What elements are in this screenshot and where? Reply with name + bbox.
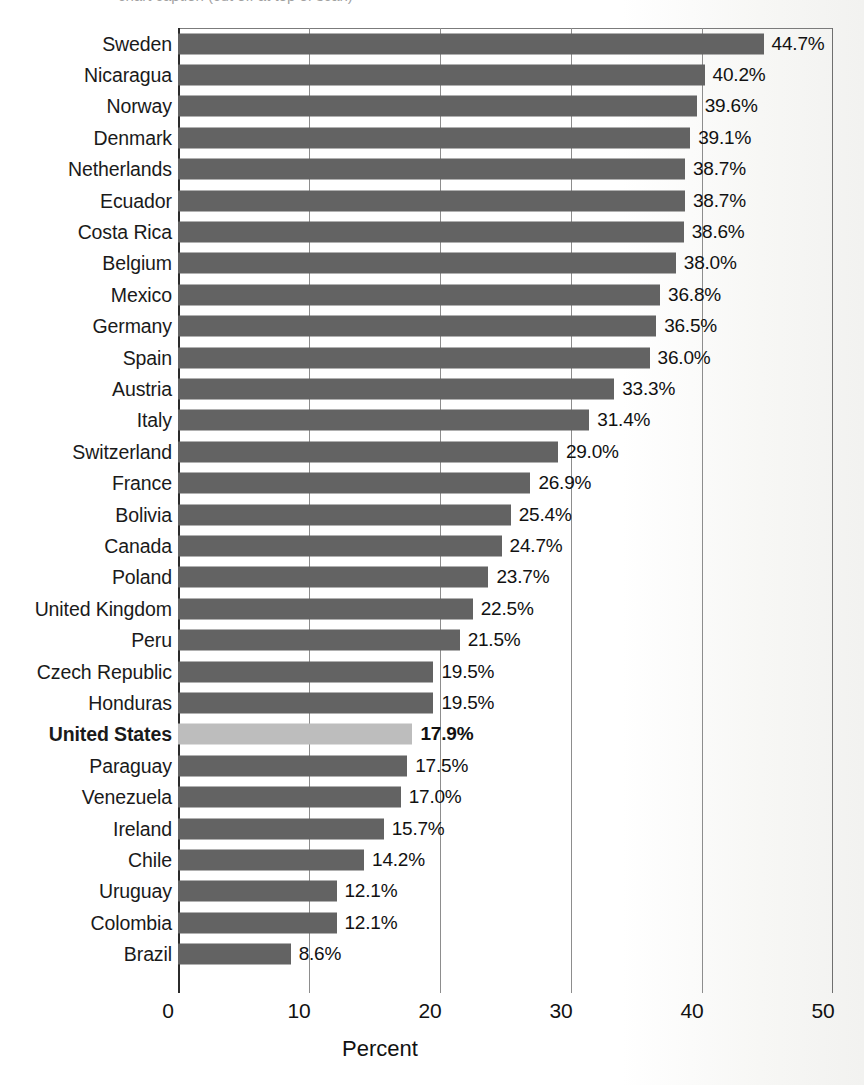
bar-row[interactable]: Canada24.7% — [0, 530, 864, 561]
bar-row[interactable]: Venezuela17.0% — [0, 782, 864, 813]
bar-row-label: Colombia — [90, 911, 172, 934]
bar-row[interactable]: Austria33.3% — [0, 373, 864, 404]
bar[interactable] — [178, 284, 660, 305]
bar[interactable] — [178, 912, 337, 933]
x-axis-title-text: Percent — [342, 1036, 418, 1061]
bar-value-label: 29.0% — [566, 441, 619, 463]
bar-value-label: 36.5% — [664, 315, 717, 337]
bar-row-label: Bolivia — [115, 503, 172, 526]
bar-value-label: 17.9% — [420, 723, 473, 745]
bar-value-label: 8.6% — [299, 943, 342, 965]
bar-row-label: France — [112, 472, 172, 495]
bar-row[interactable]: Costa Rica38.6% — [0, 216, 864, 247]
bar-row-label: Ecuador — [100, 189, 172, 212]
bar[interactable] — [178, 190, 685, 211]
bar-row[interactable]: Paraguay17.5% — [0, 750, 864, 781]
bar-row[interactable]: Bolivia25.4% — [0, 499, 864, 530]
bar-row[interactable]: Netherlands38.7% — [0, 154, 864, 185]
bar[interactable] — [178, 661, 433, 682]
bar-value-label: 44.7% — [772, 33, 825, 55]
bar[interactable] — [178, 159, 685, 180]
bar-value-label: 24.7% — [510, 535, 563, 557]
bar-row-label: Czech Republic — [37, 660, 172, 683]
bar-value-label: 25.4% — [519, 504, 572, 526]
bar-row[interactable]: Uruguay12.1% — [0, 876, 864, 907]
bar-row-label: Ireland — [113, 817, 172, 840]
bar-row[interactable]: Germany36.5% — [0, 311, 864, 342]
bar[interactable] — [178, 850, 364, 871]
bar-value-label: 14.2% — [372, 849, 425, 871]
bar-value-label: 39.1% — [698, 127, 751, 149]
bar-row-label: Poland — [112, 566, 172, 589]
bar[interactable] — [178, 881, 337, 902]
bar[interactable] — [178, 222, 684, 243]
bar-row[interactable]: Belgium38.0% — [0, 248, 864, 279]
bar[interactable] — [178, 441, 558, 462]
bar-row-label: Honduras — [88, 692, 172, 715]
bar[interactable] — [178, 379, 614, 400]
bar-row-label: Switzerland — [72, 440, 172, 463]
bar[interactable] — [178, 347, 650, 368]
bar[interactable] — [178, 598, 473, 619]
bar-row[interactable]: Ireland15.7% — [0, 813, 864, 844]
bar[interactable] — [178, 410, 589, 431]
bar-row[interactable]: Sweden44.7% — [0, 28, 864, 59]
bar[interactable] — [178, 944, 291, 965]
bar[interactable] — [178, 536, 502, 557]
bar[interactable] — [178, 787, 401, 808]
bar-value-label: 17.0% — [409, 786, 462, 808]
bar[interactable] — [178, 473, 530, 494]
bar-value-label: 21.5% — [468, 629, 521, 651]
x-tick-40: 40 — [681, 999, 704, 1023]
bar-value-label: 38.7% — [693, 158, 746, 180]
bar[interactable] — [178, 316, 656, 337]
x-tick-30: 30 — [550, 999, 573, 1023]
bar-row[interactable]: Norway39.6% — [0, 91, 864, 122]
bar[interactable] — [178, 567, 488, 588]
bar[interactable] — [178, 253, 676, 274]
bar-row-label: Costa Rica — [78, 221, 172, 244]
bar-row[interactable]: Italy31.4% — [0, 405, 864, 436]
bar-value-label: 15.7% — [392, 818, 445, 840]
bar-row[interactable]: United Kingdom22.5% — [0, 593, 864, 624]
bar[interactable] — [178, 630, 460, 651]
bar-row-label: Italy — [137, 409, 172, 432]
bar-row[interactable]: Poland23.7% — [0, 562, 864, 593]
bar[interactable] — [178, 127, 690, 148]
bar-value-label: 19.5% — [441, 661, 494, 683]
bar-row[interactable]: Honduras19.5% — [0, 687, 864, 718]
bar-row[interactable]: Czech Republic19.5% — [0, 656, 864, 687]
bar[interactable] — [178, 693, 433, 714]
bar-row[interactable]: Mexico36.8% — [0, 279, 864, 310]
bar-row-label: Denmark — [94, 126, 172, 149]
bar-value-label: 22.5% — [481, 598, 534, 620]
bar-row[interactable]: Peru21.5% — [0, 625, 864, 656]
bar-row[interactable]: Denmark39.1% — [0, 122, 864, 153]
bar[interactable] — [178, 755, 407, 776]
bar-row-label: United States — [49, 723, 172, 746]
bar-row[interactable]: Colombia12.1% — [0, 907, 864, 938]
bar-row[interactable]: France26.9% — [0, 468, 864, 499]
bar-value-label: 36.8% — [668, 284, 721, 306]
bar-row-label: Sweden — [102, 32, 172, 55]
bar-row[interactable]: Chile14.2% — [0, 844, 864, 875]
x-tick-50: 50 — [812, 999, 835, 1023]
bar-row[interactable]: Ecuador38.7% — [0, 185, 864, 216]
bar-row[interactable]: United States17.9% — [0, 719, 864, 750]
bar[interactable] — [178, 504, 511, 525]
bar[interactable] — [178, 33, 764, 54]
bar[interactable] — [178, 724, 412, 745]
bar-value-label: 38.6% — [692, 221, 745, 243]
bar-row[interactable]: Nicaragua40.2% — [0, 59, 864, 90]
bar-value-label: 26.9% — [538, 472, 591, 494]
bar-row-label: Venezuela — [82, 786, 172, 809]
bar[interactable] — [178, 818, 384, 839]
bar-row[interactable]: Spain36.0% — [0, 342, 864, 373]
bar-value-label: 31.4% — [597, 409, 650, 431]
bar[interactable] — [178, 96, 697, 117]
x-tick-10: 10 — [288, 999, 311, 1023]
bar[interactable] — [178, 65, 705, 86]
bar-row[interactable]: Switzerland29.0% — [0, 436, 864, 467]
bar-row-label: Paraguay — [89, 754, 172, 777]
bar-row[interactable]: Brazil8.6% — [0, 939, 864, 970]
